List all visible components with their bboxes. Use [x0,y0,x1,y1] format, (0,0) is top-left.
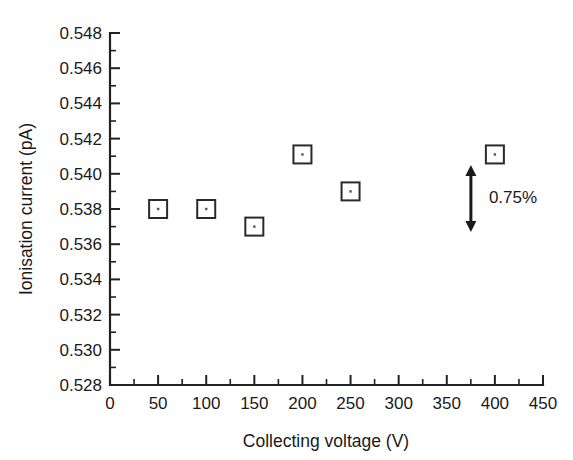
x-axis-title: Collecting voltage (V) [243,431,409,451]
data-point-marker [342,182,360,200]
y-axis-ticks [110,33,120,385]
x-tick-label: 250 [336,394,364,413]
y-tick-label: 0.546 [59,59,102,78]
plot-area: 0.5280.5300.5320.5340.5360.5380.5400.542… [0,0,573,460]
data-point-markers [149,145,504,235]
y-tick-label: 0.536 [59,235,102,254]
scale-bar-label: 0.75% [489,188,537,207]
y-tick-label: 0.534 [59,270,102,289]
x-tick-label: 50 [149,394,168,413]
x-tick-label: 150 [240,394,268,413]
y-tick-label: 0.532 [59,306,102,325]
data-point-marker [197,200,215,218]
x-tick-label: 300 [384,394,412,413]
y-tick-label: 0.528 [59,376,102,395]
x-tick-label: 350 [433,394,461,413]
y-tick-label: 0.540 [59,165,102,184]
x-tick-label: 400 [481,394,509,413]
data-point-marker [293,145,311,163]
y-tick-label: 0.548 [59,24,102,43]
x-tick-label: 0 [105,394,114,413]
x-tick-label: 200 [288,394,316,413]
x-axis-ticks [110,375,543,385]
y-axis-title: Ionisation current (pA) [16,123,36,295]
scale-bar-annotation: 0.75% [465,165,537,232]
x-axis-tick-labels: 050100150200250300350400450 [105,394,557,413]
y-tick-label: 0.542 [59,130,102,149]
data-point-marker [149,200,167,218]
y-tick-label: 0.530 [59,341,102,360]
x-tick-label: 100 [192,394,220,413]
arrow-head-down-icon [465,221,476,232]
data-point-marker [245,218,263,236]
figure-scatter-ionisation-current-vs-collecting-voltage: 0.5280.5300.5320.5340.5360.5380.5400.542… [0,0,573,460]
x-tick-label: 450 [529,394,557,413]
axis-frame [110,33,543,385]
y-axis-tick-labels: 0.5280.5300.5320.5340.5360.5380.5400.542… [59,24,102,395]
y-tick-label: 0.538 [59,200,102,219]
arrow-head-up-icon [465,165,476,176]
data-point-marker [486,145,504,163]
y-tick-label: 0.544 [59,94,102,113]
